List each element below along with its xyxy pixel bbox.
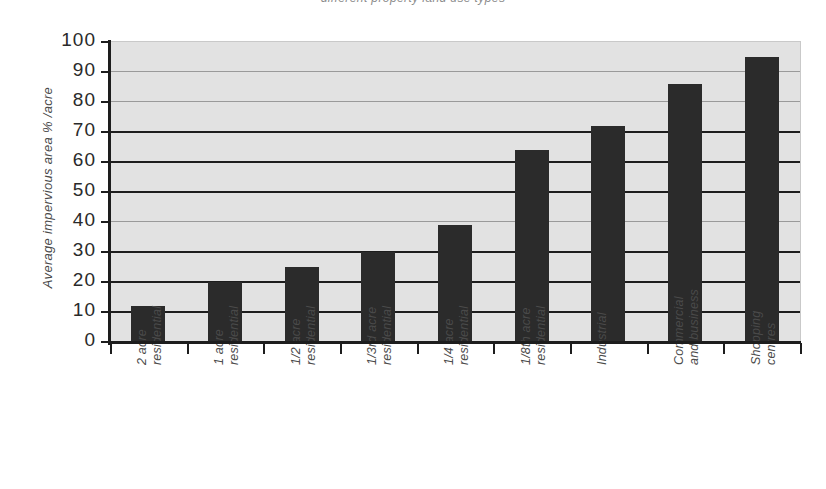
category-label-line-2: residential [457,245,472,365]
category-label-line-2: residential [534,245,549,365]
x-axis-tick [493,343,495,354]
x-axis-line [108,341,801,344]
y-axis-tick-label: 70 [50,119,96,141]
category-label-line-2: centres [764,245,779,365]
x-axis-tick [723,343,725,354]
y-axis-tick-label: 100 [50,29,96,51]
category-label-line-2: residential [227,245,242,365]
category-label-line-2: and business [687,245,702,365]
y-axis-line [108,40,111,345]
plot-right-border [800,42,801,343]
category-label-line-1: 1 acre [212,329,226,365]
x-axis-category-label: 1/4 acreresidential [442,245,472,365]
y-axis-tick-labels: 0102030405060708090100 [44,0,96,489]
gridline [110,71,800,72]
category-label-line-2: residential [380,245,395,365]
y-axis-tick-label: 30 [50,239,96,261]
category-label-line-1: Industrial [595,312,609,365]
y-axis-tick-label: 20 [50,269,96,291]
category-label-line-1: Commercial [672,296,686,365]
x-axis-category-label: 1/3rd acreresidential [365,245,395,365]
y-axis-tick-label: 40 [50,209,96,231]
y-axis-tick-label: 0 [50,329,96,351]
y-axis-tick-label: 50 [50,179,96,201]
y-axis-tick-label: 10 [50,299,96,321]
y-axis-tick-label: 60 [50,149,96,171]
x-axis-tick [647,343,649,354]
x-axis-category-label: Shoppingcentres [749,245,779,365]
category-label-line-1: 2 acre [135,329,149,365]
x-axis-tick [187,343,189,354]
chart-title: different property land use types [0,0,826,5]
y-axis-tick-label: 90 [50,59,96,81]
x-axis-category-label: Industrial [595,245,610,365]
category-label-line-1: Shopping [749,311,763,365]
x-axis-tick [263,343,265,354]
x-axis-tick [417,343,419,354]
x-axis-category-label: 1 acreresidential [212,245,242,365]
x-axis-category-label: 1/2 acreresidential [289,245,319,365]
category-label-line-1: 1/8th acre [519,307,533,365]
x-axis-category-label: 1/8th acreresidential [519,245,549,365]
category-label-line-2: residential [304,245,319,365]
plot-top-border [110,41,801,42]
y-axis-tick-label: 80 [50,89,96,111]
x-axis-tick [340,343,342,354]
x-axis-tick [570,343,572,354]
x-axis-category-label: 2 acreresidential [135,245,165,365]
x-axis-category-label: Commercialand business [672,245,702,365]
category-label-line-1: 1/3rd acre [365,307,379,365]
x-axis-tick [800,343,802,354]
category-label-line-2: residential [150,245,165,365]
